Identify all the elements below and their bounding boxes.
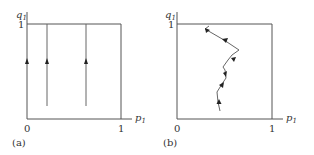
panel-b: q1 1 p1 0 1 (b)	[163, 9, 297, 148]
panel-a: q1 1 p1 0 1 (a)	[12, 9, 146, 148]
arrow-left-icon	[205, 28, 210, 33]
panel-b-y-tick-1: 1	[168, 19, 174, 30]
panel-b-caption: (b)	[163, 137, 177, 148]
panel-a-caption: (a)	[12, 137, 26, 148]
panel-b-x-axis-label: p1	[286, 112, 297, 125]
panel-b-x-tick-0: 0	[174, 123, 180, 134]
arrow-up-icon	[84, 58, 88, 64]
panel-b-x-tick-1: 1	[269, 123, 275, 134]
panel-b-trajectory	[205, 26, 239, 111]
panel-a-x-tick-1: 1	[118, 123, 124, 134]
phase-diagram-figure: q1 1 p1 0 1 (a) q1 1 p1 0 1 (b)	[0, 0, 314, 155]
arrow-up-icon	[231, 57, 236, 62]
arrow-up-icon	[45, 58, 49, 64]
panel-a-y-tick-1: 1	[18, 19, 24, 30]
arrow-up-icon	[25, 58, 29, 64]
arrow-up-icon	[217, 99, 222, 104]
panel-a-x-axis-label: p1	[135, 112, 146, 125]
panel-a-x-tick-0: 0	[24, 123, 30, 134]
